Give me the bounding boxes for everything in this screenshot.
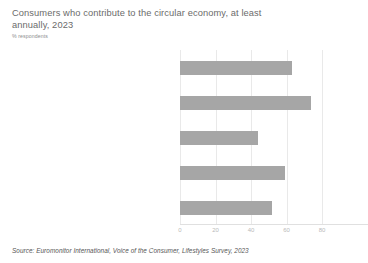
x-tick-label-20: 20 [212,227,219,233]
x-axis-line [180,224,368,225]
bar-1 [180,96,311,110]
x-tick-label-80: 80 [319,227,326,233]
bar-0 [180,61,292,75]
chart-subtitle: % respondents [12,33,48,39]
x-tick-label-40: 40 [248,227,255,233]
gridline-80 [322,50,323,225]
bar-4 [180,201,272,215]
chart-container: Consumers who contribute to the circular… [0,0,368,263]
bar-2 [180,131,258,145]
plot-area: 020406080 Buy used or second-hand itemsD… [180,50,322,225]
source-note: Source: Euromonitor International, Voice… [12,247,249,254]
gridline-60 [287,50,288,225]
page-title: Consumers who contribute to the circular… [12,7,272,31]
bar-3 [180,166,285,180]
x-tick-label-60: 60 [283,227,290,233]
x-tick-label-0: 0 [178,227,181,233]
